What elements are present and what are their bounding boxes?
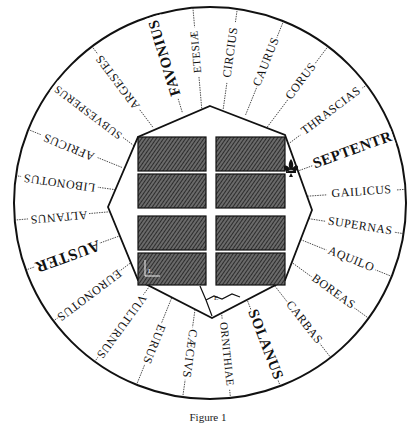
- wind-label-boreas: BOREAS: [309, 271, 358, 312]
- wind-label-altanus: ALTANUS: [29, 208, 87, 227]
- wind-label-thrascias: THRASCIAS: [298, 83, 363, 137]
- wind-label-aquilo: AQUILO: [326, 243, 377, 274]
- city-block: [216, 216, 285, 250]
- wind-label-corus: CORUS: [282, 60, 319, 102]
- wind-label-vulturnus: VULTURNUS: [94, 292, 150, 362]
- wind-label-argestes: ARGESTES: [92, 52, 142, 112]
- wind-label-eurus: EURUS: [140, 322, 169, 366]
- wind-label-carbas: CARBAS: [283, 298, 325, 347]
- city-block: [216, 174, 285, 208]
- gate-letter: E: [214, 294, 218, 302]
- city-block: [216, 137, 285, 171]
- wind-label-supernas: SUPERNAS: [327, 214, 394, 238]
- corner-letter: L: [148, 267, 152, 275]
- wind-label-euronotus: EURONOTUS: [54, 267, 124, 325]
- wind-label-auster: AUSTER: [33, 237, 103, 276]
- wind-label-subvesperus: SUBVESPERUS: [51, 83, 124, 142]
- wind-rose-diagram: FAVONIUSETESIÆCIRCIUSCAURUSCORUSTHRASCIA…: [0, 0, 416, 434]
- wind-label-libonotus: LIBONOTUS: [22, 171, 96, 195]
- city-block: [138, 216, 206, 250]
- city-block: [216, 253, 285, 285]
- city-block: [138, 137, 206, 171]
- wind-label-caurus: CAURUS: [250, 35, 282, 88]
- figure-caption: Figure 1: [0, 411, 416, 423]
- city-block: [138, 174, 206, 208]
